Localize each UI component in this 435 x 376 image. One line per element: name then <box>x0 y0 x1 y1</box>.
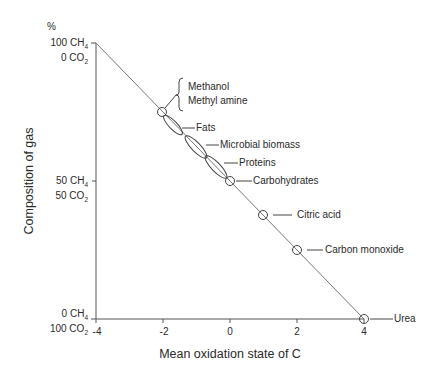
svg-text:4: 4 <box>361 326 367 337</box>
brace-icon <box>176 78 183 111</box>
svg-text:50 CO2: 50 CO2 <box>55 190 88 203</box>
label-urea: Urea <box>394 313 416 324</box>
svg-text:100 CH4: 100 CH4 <box>50 37 88 50</box>
label-carbohydrates: Carbohydrates <box>253 175 319 186</box>
svg-text:0 CO2: 0 CO2 <box>61 52 88 65</box>
svg-text:2: 2 <box>294 326 300 337</box>
svg-text:0 CH4: 0 CH4 <box>62 308 89 321</box>
y-axis-title: Composition of gas <box>22 127 36 234</box>
y-unit-label: % <box>47 21 56 32</box>
chart-canvas: % 100 CH4 0 CO2 50 CH4 50 CO2 0 CH4 100 … <box>0 0 435 376</box>
label-methanol: Methanol <box>188 81 229 92</box>
svg-text:100 CO2: 100 CO2 <box>50 323 88 336</box>
trend-line <box>96 43 364 319</box>
point-labels: Methanol Methyl amine Fats Microbial bio… <box>188 81 416 324</box>
svg-text:0: 0 <box>227 326 233 337</box>
x-axis-title: Mean oxidation state of C <box>159 347 301 361</box>
label-proteins: Proteins <box>239 157 276 168</box>
y-tick-50: 50 CH4 50 CO2 <box>55 175 88 203</box>
y-tick-100: 100 CH4 0 CO2 <box>50 37 88 65</box>
label-fats: Fats <box>196 122 215 133</box>
label-carbon-monoxide: Carbon monoxide <box>325 244 404 255</box>
label-citric-acid: Citric acid <box>297 209 341 220</box>
svg-text:-4: -4 <box>93 326 102 337</box>
leader-lines <box>165 78 393 319</box>
x-tick-labels: -4 -2 0 2 4 <box>93 326 368 337</box>
marker-fats <box>161 113 185 137</box>
svg-text:-2: -2 <box>160 326 169 337</box>
label-microbial-biomass: Microbial biomass <box>220 139 300 150</box>
label-methyl-amine: Methyl amine <box>188 95 248 106</box>
svg-text:50 CH4: 50 CH4 <box>56 175 88 188</box>
y-tick-0: 0 CH4 100 CO2 <box>50 308 88 336</box>
